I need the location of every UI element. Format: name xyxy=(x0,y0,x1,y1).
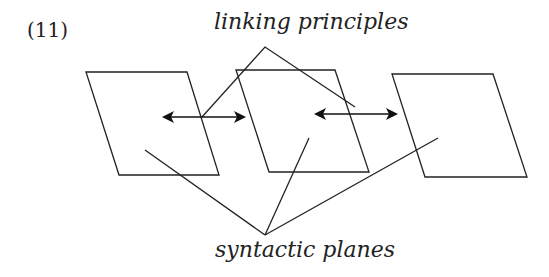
diagram-canvas: (11) linking principles syntactic planes xyxy=(0,0,549,277)
syntactic-pointer-left xyxy=(145,150,265,235)
syntactic-planes-label: syntactic planes xyxy=(215,237,395,262)
plane-left xyxy=(86,72,219,175)
linking-principles-label: linking principles xyxy=(214,9,408,34)
syntactic-pointer-right xyxy=(265,138,438,235)
plane-middle xyxy=(236,70,369,172)
syntactic-pointer-middle xyxy=(265,138,309,235)
linking-pointer-lines xyxy=(202,47,355,117)
plane-right xyxy=(392,74,527,177)
example-number: (11) xyxy=(27,18,68,42)
diagram-svg xyxy=(0,0,549,277)
